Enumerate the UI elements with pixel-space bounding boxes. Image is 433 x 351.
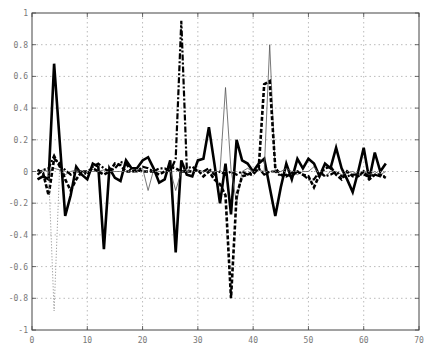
y-tick-label: -1: [18, 326, 28, 335]
series-thick-dashed: [38, 81, 386, 298]
line-chart: -1-0.8-0.6-0.4-0.200.20.40.60.81 0102030…: [0, 0, 433, 351]
y-tick-label: -0.6: [9, 263, 28, 272]
data-series: [38, 21, 386, 311]
x-tick-label: 50: [304, 336, 314, 345]
y-axis-tick-labels: -1-0.8-0.6-0.4-0.200.20.40.60.81: [9, 9, 28, 335]
x-tick-label: 70: [414, 336, 424, 345]
x-tick-label: 30: [193, 336, 203, 345]
x-tick-label: 20: [138, 336, 148, 345]
series-thick-solid: [38, 64, 386, 253]
series-thin-solid: [38, 45, 386, 204]
y-tick-label: 0.8: [14, 41, 29, 50]
y-tick-label: 1: [23, 9, 28, 18]
x-tick-label: 40: [248, 336, 258, 345]
y-tick-label: 0: [23, 168, 28, 177]
y-tick-label: 0.6: [14, 72, 29, 81]
x-tick-label: 0: [30, 336, 35, 345]
y-tick-label: 0.4: [14, 104, 29, 113]
y-tick-label: -0.4: [9, 231, 28, 240]
x-tick-label: 60: [359, 336, 369, 345]
y-tick-label: 0.2: [14, 136, 29, 145]
x-tick-label: 10: [82, 336, 92, 345]
series-thin-dotted: [38, 168, 386, 311]
x-axis-tick-labels: 010203040506070: [30, 336, 424, 345]
y-tick-label: -0.8: [9, 294, 28, 303]
y-tick-label: -0.2: [9, 199, 28, 208]
